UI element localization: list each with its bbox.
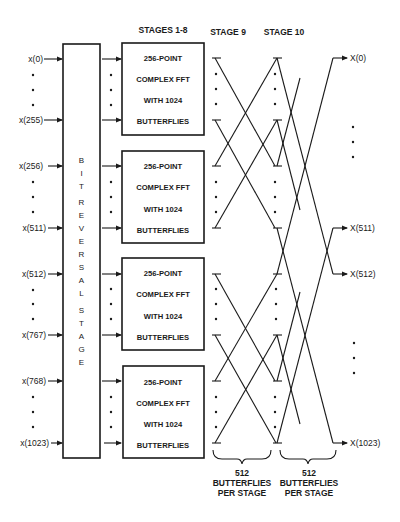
svg-text:BUTTERFLIES: BUTTERFLIES: [280, 478, 339, 488]
input-label-first: x(0): [28, 54, 43, 64]
svg-text:E: E: [79, 211, 84, 220]
svg-text:WITH 1024: WITH 1024: [144, 312, 183, 321]
svg-text:R: R: [79, 198, 85, 207]
fft-block-0: 256-POINT COMPLEX FFT WITH 1024 BUTTERFL…: [122, 43, 204, 135]
svg-text:G: G: [78, 345, 84, 354]
svg-text:BUTTERFLIES: BUTTERFLIES: [137, 226, 189, 235]
svg-text:256-POINT: 256-POINT: [144, 378, 183, 387]
svg-text:BUTTERFLIES: BUTTERFLIES: [137, 117, 189, 126]
output-label-x1023: X(1023): [350, 438, 380, 448]
svg-text:S: S: [79, 306, 84, 315]
fft-block-3: 256-POINT COMPLEX FFT WITH 1024 BUTTERFL…: [123, 366, 204, 458]
stage-10-nodes: [273, 58, 282, 443]
svg-text:T: T: [79, 182, 84, 191]
fft-block-2: 256-POINT COMPLEX FFT WITH 1024 BUTTERFL…: [122, 258, 204, 350]
stage-10-butterflies: [277, 58, 333, 443]
svg-text:E: E: [79, 358, 84, 367]
svg-text:COMPLEX FFT: COMPLEX FFT: [136, 290, 190, 299]
svg-text:I: I: [80, 169, 82, 178]
svg-text:A: A: [79, 332, 85, 341]
stage-9-butterflies: [215, 58, 277, 443]
svg-text:COMPLEX FFT: COMPLEX FFT: [136, 183, 190, 192]
svg-text:256-POINT: 256-POINT: [144, 162, 183, 171]
svg-text:A: A: [79, 276, 85, 285]
output-arrows: [333, 58, 347, 443]
output-label-x512: X(512): [350, 269, 376, 279]
svg-text:V: V: [79, 224, 85, 233]
fft-diagram: STAGES 1-8 STAGE 9 STAGE 10 B I T R E V …: [0, 0, 400, 522]
svg-text:PER STAGE: PER STAGE: [218, 488, 267, 498]
svg-text:WITH 1024: WITH 1024: [144, 96, 183, 105]
svg-text:B: B: [79, 156, 84, 165]
input-label-first: x(256): [19, 161, 43, 171]
input-label-last: x(767): [22, 330, 46, 340]
svg-text:COMPLEX FFT: COMPLEX FFT: [136, 399, 190, 408]
input-label-last: x(511): [23, 223, 47, 233]
input-label-first: x(512): [22, 269, 46, 279]
header-stages-1-8: STAGES 1-8: [139, 25, 188, 35]
svg-text:R: R: [79, 250, 85, 259]
fft-block-1: 256-POINT COMPLEX FFT WITH 1024 BUTTERFL…: [122, 151, 204, 243]
input-label-last: x(255): [19, 115, 43, 125]
svg-text:PER STAGE: PER STAGE: [285, 488, 334, 498]
output-ellipsis: [352, 126, 355, 374]
svg-text:BUTTERFLIES: BUTTERFLIES: [213, 478, 272, 488]
brace-stage-9: 512 BUTTERFLIES PER STAGE: [213, 450, 272, 498]
svg-text:WITH 1024: WITH 1024: [144, 420, 183, 429]
svg-text:512: 512: [235, 468, 249, 478]
svg-text:WITH 1024: WITH 1024: [144, 205, 183, 214]
brace-stage-10: 512 BUTTERFLIES PER STAGE: [280, 450, 339, 498]
output-label-x0: X(0): [350, 53, 366, 63]
svg-text:BUTTERFLIES: BUTTERFLIES: [137, 333, 189, 342]
svg-text:L: L: [79, 289, 84, 298]
svg-text:COMPLEX FFT: COMPLEX FFT: [136, 75, 190, 84]
svg-text:512: 512: [302, 468, 316, 478]
header-stage-9: STAGE 9: [210, 27, 246, 37]
input-label-first: x(768): [22, 376, 46, 386]
stage-9-nodes: [212, 58, 221, 443]
svg-text:S: S: [79, 263, 84, 272]
svg-text:BUTTERFLIES: BUTTERFLIES: [137, 441, 189, 450]
input-label-last: x(1023): [20, 438, 49, 448]
svg-text:256-POINT: 256-POINT: [144, 54, 183, 63]
header-stage-10: STAGE 10: [264, 27, 305, 37]
output-label-x511: X(511): [350, 223, 375, 233]
svg-text:256-POINT: 256-POINT: [144, 269, 183, 278]
svg-text:E: E: [79, 237, 84, 246]
svg-text:T: T: [79, 319, 84, 328]
